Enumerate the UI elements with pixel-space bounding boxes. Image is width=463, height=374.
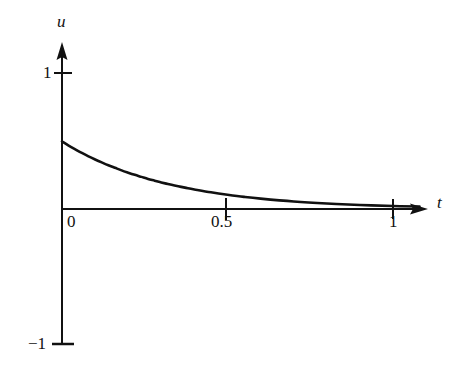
x-tick-label-0: 0 [67,213,76,230]
data-curve-u-of-t [62,142,419,207]
y-tick-label-minus-1: −1 [28,335,46,352]
x-tick-label-0point5: 0.5 [211,213,232,230]
x-tick-label-1: 1 [389,213,398,230]
x-axis-label: t [437,194,442,211]
y-tick-label-1: 1 [43,64,52,81]
y-axis-label: u [57,13,66,30]
chart-canvas [0,0,463,374]
figure-container: u t 1 −1 0 0.5 1 [0,0,463,374]
